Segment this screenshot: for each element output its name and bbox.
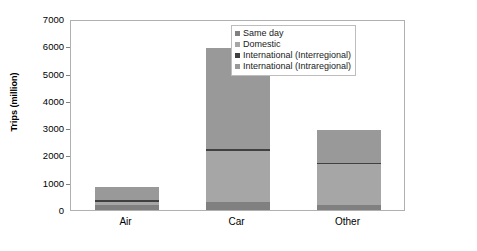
legend-label: Domestic [243, 39, 281, 50]
y-axis-tick-label: 5000 [18, 70, 64, 80]
x-axis-label-other: Other [303, 216, 393, 227]
y-axis-title: Trips (million) [9, 57, 19, 147]
y-axis-tick-label: 0 [18, 206, 64, 216]
x-axis-label-air: Air [81, 216, 171, 227]
legend-item: Domestic [235, 39, 351, 50]
bar-segment [95, 187, 159, 200]
bar-other [317, 130, 381, 210]
legend-swatch-icon [235, 53, 240, 58]
legend-swatch-icon [235, 42, 240, 47]
legend-label: International (Interregional) [243, 50, 351, 61]
legend-item: International (Interregional) [235, 50, 351, 61]
bar-air [95, 187, 159, 210]
legend-item: Same day [235, 28, 351, 39]
legend-label: Same day [243, 28, 284, 39]
y-axis-tick-label: 2000 [18, 152, 64, 162]
legend-item: International (Intraregional) [235, 61, 351, 72]
stacked-bar-chart: Trips (million) 010002000300040005000600… [0, 0, 477, 251]
y-axis-tick-label: 1000 [18, 179, 64, 189]
y-axis-tick-label: 6000 [18, 43, 64, 53]
legend-swatch-icon [235, 64, 240, 69]
legend-swatch-icon [235, 31, 240, 36]
y-axis-tick-label: 4000 [18, 97, 64, 107]
bar-segment [317, 205, 381, 210]
bar-segment [206, 151, 270, 202]
y-axis-tick-label: 3000 [18, 124, 64, 134]
legend-label: International (Intraregional) [243, 61, 351, 72]
bar-segment [317, 164, 381, 205]
bar-segment [206, 202, 270, 210]
bar-segment [95, 205, 159, 210]
bar-segment [317, 130, 381, 162]
x-axis-label-car: Car [192, 216, 282, 227]
chart-legend: Same dayDomesticInternational (Interregi… [231, 25, 356, 76]
y-axis-tick-label: 7000 [18, 15, 64, 25]
